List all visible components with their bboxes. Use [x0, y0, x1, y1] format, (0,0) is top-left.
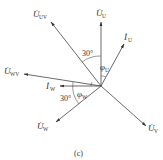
label-i-w: İW: [45, 81, 56, 92]
angle-label-phi-u: φU: [100, 62, 109, 73]
angle-arc-phi-w: [91, 82, 92, 86]
label-u-wv: U̇WV: [4, 66, 19, 77]
svg-text:U: U: [102, 13, 106, 19]
phasor-diagram: U̇U İU U̇UV U̇WV İW U̇W U̇V 30° φU 30° φ…: [0, 0, 163, 160]
vector-u-v: [101, 86, 146, 126]
angle-arc-phi-u: [101, 76, 106, 77]
vector-u-wv: [24, 74, 101, 86]
svg-text:V: V: [154, 128, 158, 134]
svg-text:WV: WV: [10, 71, 19, 77]
label-u-u: U̇U: [96, 8, 106, 19]
figure-caption: (c): [74, 149, 83, 158]
label-u-uv: U̇UV: [33, 9, 47, 20]
svg-text:UV: UV: [39, 14, 47, 20]
angle-label-phi-w: φW: [77, 89, 88, 100]
angle-label-uv-u: 30°: [82, 49, 93, 58]
svg-text:W: W: [82, 94, 88, 100]
svg-text:W: W: [43, 126, 49, 132]
angle-label-wv-w: 30°: [60, 94, 71, 103]
vector-u-uv: [51, 22, 101, 86]
svg-text:U: U: [105, 67, 109, 73]
label-u-v: U̇V: [148, 123, 158, 134]
svg-text:W: W: [50, 86, 56, 92]
label-i-u: İU: [123, 32, 132, 43]
label-u-w: U̇W: [37, 121, 49, 132]
svg-text:U: U: [128, 37, 132, 43]
